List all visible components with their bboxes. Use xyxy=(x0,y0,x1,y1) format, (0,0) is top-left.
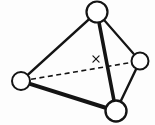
edge-top-right xyxy=(105,21,134,54)
graph-canvas xyxy=(0,0,155,125)
node-left[interactable] xyxy=(12,72,30,90)
edge-right-bottom xyxy=(121,70,136,101)
edge-left-bottom xyxy=(31,84,105,107)
node-right[interactable] xyxy=(132,53,149,70)
edge-left-right-dashed xyxy=(31,63,130,80)
node-top[interactable] xyxy=(87,2,108,23)
node-bottom[interactable] xyxy=(106,101,127,122)
edge-top-left xyxy=(29,20,89,74)
edge-top-bottom xyxy=(99,23,114,99)
x-marker-icon xyxy=(93,56,99,62)
tetrahedron-diagram: x xyxy=(0,0,155,125)
